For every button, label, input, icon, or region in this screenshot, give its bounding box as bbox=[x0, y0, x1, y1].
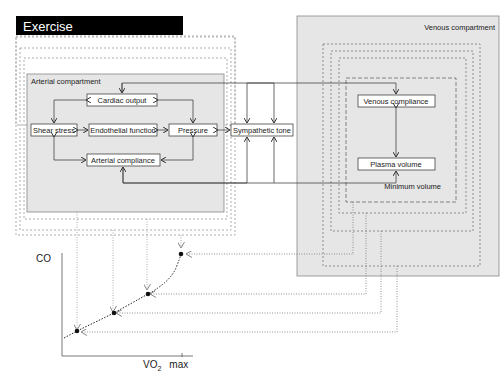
data-point-4 bbox=[179, 252, 184, 257]
y-axis-label: CO bbox=[36, 253, 51, 264]
exercise-title: Exercise bbox=[23, 19, 73, 34]
node-cardiac-output: Cardiac output bbox=[87, 94, 157, 106]
svg-text:Sympathetic tone: Sympathetic tone bbox=[233, 126, 291, 135]
node-sympathetic-tone: Sympathetic tone bbox=[231, 124, 293, 136]
svg-text:Plasma volume: Plasma volume bbox=[370, 160, 421, 169]
arterial-compartment-title: Arterial compartment bbox=[31, 77, 102, 86]
x-axis-label: VO2max bbox=[143, 359, 188, 372]
arterial-compartment: Arterial compartment Cardiac output Shea… bbox=[27, 74, 230, 212]
venous-compartment-title: Venous compartment bbox=[424, 23, 496, 32]
data-point-1 bbox=[75, 329, 80, 334]
svg-text:Cardiac output: Cardiac output bbox=[98, 96, 148, 105]
svg-text:Arterial compliance: Arterial compliance bbox=[91, 156, 155, 165]
svg-text:Venous compliance: Venous compliance bbox=[363, 97, 428, 106]
node-venous-compliance: Venous compliance bbox=[358, 95, 435, 107]
node-pressure: Pressure bbox=[169, 124, 217, 136]
node-shear-stress: Shear stress bbox=[31, 124, 77, 136]
svg-text:Endothelial function: Endothelial function bbox=[90, 126, 155, 135]
venous-compartment: Venous compartment Minimum volume Venous… bbox=[297, 16, 499, 276]
svg-text:Shear stress: Shear stress bbox=[33, 126, 75, 135]
node-arterial-compliance: Arterial compliance bbox=[87, 154, 160, 166]
data-point-3 bbox=[146, 292, 151, 297]
svg-text:Pressure: Pressure bbox=[178, 126, 208, 135]
node-plasma-volume: Plasma volume bbox=[358, 158, 435, 170]
data-point-2 bbox=[112, 311, 117, 316]
co-curve bbox=[64, 254, 181, 338]
node-endothelial-function: Endothelial function bbox=[89, 124, 157, 136]
arterial-drop-lines bbox=[77, 212, 181, 330]
exercise-diagram: Exercise Arterial compartment Cardiac ou… bbox=[0, 0, 502, 384]
exercise-header: Exercise bbox=[16, 16, 183, 35]
co-vo2-chart: CO VO2max bbox=[36, 252, 193, 372]
